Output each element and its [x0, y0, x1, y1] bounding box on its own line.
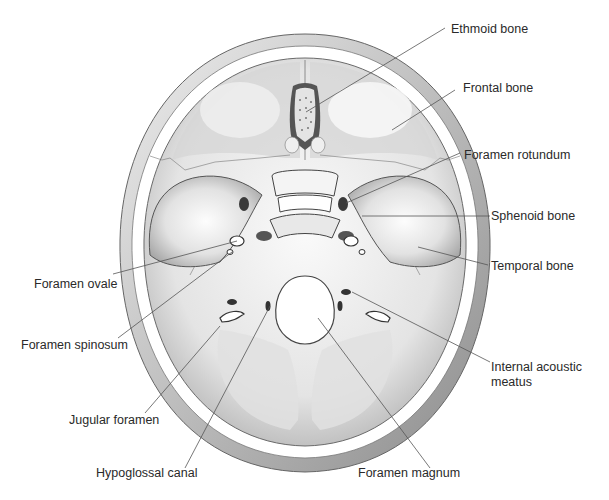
internal-acoustic-meatus-left	[227, 299, 237, 305]
label-foramen-rotundum: Foramen rotundum	[464, 148, 570, 162]
foramen-rotundum-right	[338, 197, 348, 211]
internal-acoustic-meatus-right	[341, 289, 351, 295]
label-ethmoid-bone: Ethmoid bone	[451, 22, 528, 36]
label-internal-acoustic-meatus-line1: Internal acoustic	[491, 360, 582, 374]
label-foramen-magnum: Foramen magnum	[358, 466, 460, 480]
label-foramen-spinosum: Foramen spinosum	[21, 338, 128, 352]
label-frontal-bone: Frontal bone	[463, 81, 533, 95]
label-sphenoid-bone: Sphenoid bone	[491, 209, 575, 223]
hypoglossal-canal-right	[338, 301, 343, 311]
skull-base-diagram: Ethmoid bone Frontal bone Foramen rotund…	[0, 0, 609, 500]
foramen-ovale-right	[344, 236, 358, 246]
label-temporal-bone: Temporal bone	[491, 259, 574, 273]
label-jugular-foramen: Jugular foramen	[69, 413, 159, 427]
label-hypoglossal-canal: Hypoglossal canal	[96, 466, 197, 480]
label-internal-acoustic-meatus-line2: meatus	[491, 375, 532, 389]
foramen-magnum	[276, 276, 335, 344]
foramen-spinosum-right	[359, 250, 365, 255]
foramen-rotundum-left	[239, 197, 249, 211]
label-foramen-ovale: Foramen ovale	[34, 277, 117, 291]
